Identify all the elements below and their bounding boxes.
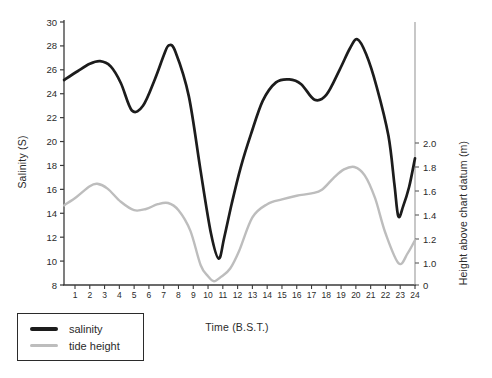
tide-height-curve [64, 167, 415, 282]
chart-figure: 302826242220181614121082.01.81.61.41.21.… [0, 0, 492, 378]
x-axis-tick-label: 21 [366, 290, 376, 300]
left-axis-title: Salinity (S) [16, 135, 28, 188]
x-axis-tick-label: 6 [147, 290, 152, 300]
left-axis-tick-label: 20 [46, 136, 57, 147]
x-axis-tick-label: 22 [381, 290, 391, 300]
right-axis-tick-label: 1.4 [423, 210, 436, 221]
x-axis-tick-label: 18 [322, 290, 332, 300]
x-axis-tick-label: 10 [203, 290, 213, 300]
left-axis-tick-label: 12 [46, 232, 57, 243]
legend: salinity tide height [17, 313, 144, 361]
x-axis-title: Time (B.S.T.) [205, 321, 268, 333]
legend-label-tide-height: tide height [69, 340, 120, 352]
right-axis-tick-label: 1.6 [423, 186, 436, 197]
left-axis-tick-label: 16 [46, 184, 57, 195]
right-axis-tick-label: 2.0 [423, 138, 436, 149]
x-axis-tick-label: 14 [262, 290, 272, 300]
right-axis-title: Height above chart datum (m) [457, 141, 469, 286]
left-axis-tick-label: 30 [46, 17, 57, 28]
x-axis-tick-label: 4 [117, 290, 122, 300]
x-axis-tick-label: 8 [176, 290, 181, 300]
left-axis-tick-label: 24 [46, 88, 57, 99]
salinity-curve [64, 39, 415, 259]
legend-item-tide-height: tide height [30, 340, 143, 352]
x-axis-tick-label: 12 [233, 290, 243, 300]
left-axis-tick-label: 18 [46, 160, 57, 171]
legend-item-salinity: salinity [30, 323, 143, 335]
left-axis-tick-label: 14 [46, 208, 57, 219]
x-axis-tick-label: 1 [73, 290, 78, 300]
x-axis-tick-label: 13 [248, 290, 258, 300]
right-axis-tick-label: 0 [423, 280, 428, 291]
x-axis-tick-label: 3 [102, 290, 107, 300]
x-axis-tick-label: 23 [395, 290, 405, 300]
x-axis-tick-label: 5 [132, 290, 137, 300]
legend-label-salinity: salinity [69, 323, 103, 335]
x-axis-tick-label: 2 [87, 290, 92, 300]
tide-height-line-swatch [30, 344, 58, 347]
x-axis-tick-label: 7 [161, 290, 166, 300]
x-axis-tick-label: 16 [292, 290, 302, 300]
x-axis-tick-label: 19 [336, 290, 346, 300]
x-axis-tick-label: 17 [307, 290, 317, 300]
left-axis-tick-label: 26 [46, 64, 57, 75]
left-axis-tick-label: 10 [46, 256, 57, 267]
x-axis-tick-label: 24 [410, 290, 420, 300]
x-axis-tick-label: 9 [191, 290, 196, 300]
x-axis-tick-label: 20 [351, 290, 361, 300]
left-axis-tick-label: 28 [46, 40, 57, 51]
right-axis-tick-label: 1.8 [423, 162, 436, 173]
left-axis-tick-label: 8 [52, 280, 57, 291]
right-axis-tick-label: 1.0 [423, 258, 436, 269]
right-axis-tick-label: 1.2 [423, 234, 436, 245]
salinity-line-swatch [30, 327, 58, 331]
x-axis-tick-label: 11 [218, 290, 227, 300]
left-axis-tick-label: 22 [46, 112, 57, 123]
x-axis-tick-label: 15 [277, 290, 287, 300]
